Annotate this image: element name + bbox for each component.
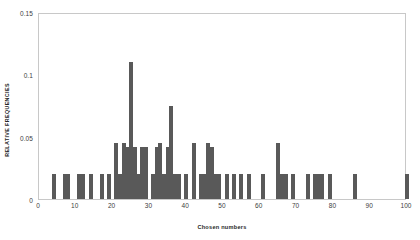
bar [328, 174, 332, 199]
bar [353, 174, 357, 199]
x-tick-label: 0 [36, 202, 40, 209]
x-tick-label: 40 [181, 202, 188, 209]
x-tick-label: 20 [108, 202, 115, 209]
y-tick-label: 0.05 [20, 134, 33, 141]
bar [81, 174, 85, 199]
bar [239, 174, 243, 199]
x-tick-label: 50 [218, 202, 225, 209]
y-tick-label: 0.1 [24, 72, 33, 79]
bar [225, 174, 229, 199]
bar [284, 174, 288, 199]
bar [320, 174, 324, 199]
x-tick-label: 90 [365, 202, 372, 209]
bars-layer [39, 14, 405, 199]
x-tick-label: 30 [145, 202, 152, 209]
bar [144, 147, 148, 199]
bar [405, 174, 409, 199]
bar [306, 174, 310, 199]
x-tick-label: 80 [329, 202, 336, 209]
bar [66, 174, 70, 199]
x-tick-label: 10 [71, 202, 78, 209]
bar [247, 174, 251, 199]
bar [107, 174, 111, 199]
x-axis: 0102030405060708090100 [38, 202, 406, 216]
plot-area [38, 13, 406, 200]
bar [89, 174, 93, 199]
y-tick-label: 0.15 [20, 10, 33, 17]
bar [261, 174, 265, 199]
x-tick-label: 60 [255, 202, 262, 209]
bar [232, 174, 236, 199]
relative-frequencies-bar-chart: 00.050.10.15 RELATIVE FREQUENCIES 010203… [0, 0, 420, 240]
bar [217, 174, 221, 199]
x-tick-label: 100 [400, 202, 411, 209]
x-axis-title: Chosen numbers [38, 224, 406, 230]
bar [192, 143, 196, 199]
bar [177, 174, 181, 199]
bar [52, 174, 56, 199]
bar [291, 174, 295, 199]
bar [184, 174, 188, 199]
y-tick-label: 0 [29, 197, 33, 204]
y-axis-title: RELATIVE FREQUENCIES [4, 83, 10, 157]
x-tick-label: 70 [292, 202, 299, 209]
bar [100, 174, 104, 199]
